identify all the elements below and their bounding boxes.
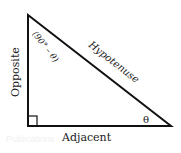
right-triangle-diagram: Opposite (90° – θ) Hypotenuse θ Adjacent…: [0, 0, 181, 153]
triangle-shape: [28, 15, 171, 126]
complement-angle-label: (90° – θ): [30, 29, 60, 64]
adjacent-label: Adjacent: [61, 131, 112, 144]
theta-label: θ: [143, 114, 149, 125]
hypotenuse-label: Hypotenuse: [86, 38, 141, 85]
watermark-text: Publications: [6, 134, 55, 144]
opposite-label: Opposite: [9, 47, 22, 97]
right-angle-marker: [28, 116, 37, 126]
